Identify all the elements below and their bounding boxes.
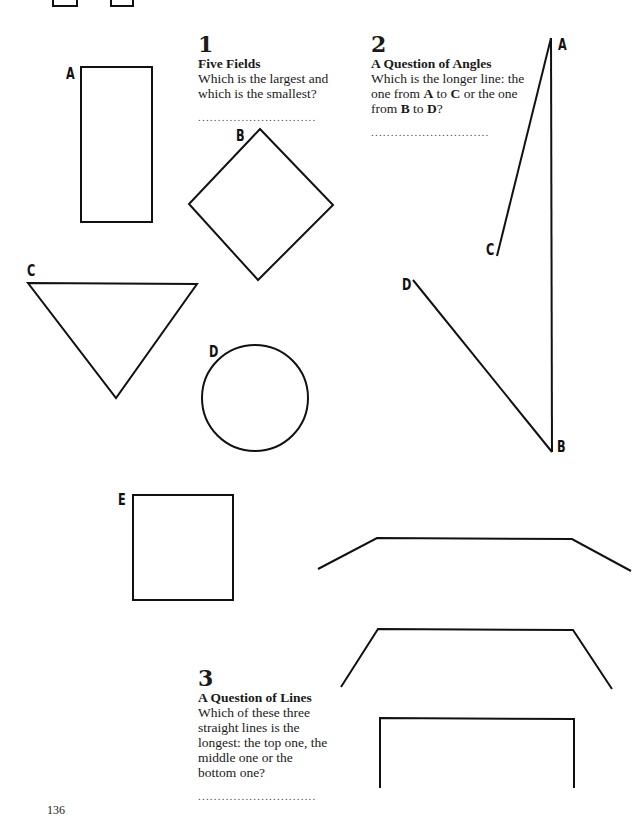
puzzle-2: 2 A Question of Angles Which is the long… [371, 33, 531, 138]
answer-line[interactable]: .............................. [198, 790, 333, 802]
point-ref: B [401, 101, 410, 116]
puzzle-number: 3 [198, 667, 333, 689]
shape-b-diamond [189, 129, 333, 280]
puzzle-question: Which of these three straight lines is t… [198, 705, 333, 780]
point-ref: C [451, 86, 461, 101]
label-point-b: B [557, 440, 566, 455]
puzzle-title: Five Fields [198, 56, 333, 71]
answer-line[interactable]: .............................. [198, 111, 333, 123]
puzzle-1: 1 Five Fields Which is the largest and w… [198, 33, 333, 123]
page-number: 136 [47, 803, 65, 818]
top-partial-boxes [53, 0, 133, 6]
label-c-shape: C [27, 264, 35, 279]
label-b-shape: B [236, 129, 245, 144]
shape-c-triangle [28, 283, 197, 398]
puzzle-3: 3 A Question of Lines Which of these thr… [198, 667, 333, 802]
puzzle-question: Which is the largest and which is the sm… [198, 71, 333, 101]
question-text: to [433, 86, 450, 101]
shape-e-square [133, 495, 233, 600]
puzzle-title: A Question of Angles [371, 56, 531, 71]
puzzle-number: 2 [371, 33, 531, 55]
shape-a-rectangle [81, 67, 152, 222]
label-point-c: C [486, 243, 494, 258]
line-d-to-b [413, 280, 552, 452]
point-ref: A [423, 86, 433, 101]
answer-line[interactable]: .............................. [371, 126, 531, 138]
puzzle-number: 1 [198, 33, 333, 55]
question-text: ? [437, 101, 443, 116]
puzzle-question: Which is the longer line: the one from A… [371, 71, 531, 116]
point-ref: D [427, 101, 437, 116]
line-bottom [380, 718, 574, 788]
line-middle [341, 629, 612, 689]
line-a-to-b [551, 38, 552, 452]
puzzle-page: A B C D E A B C D 1 Five Fields Which is… [0, 0, 644, 823]
label-d-shape: D [209, 345, 218, 360]
label-a-shape: A [66, 67, 75, 82]
label-e-shape: E [118, 493, 126, 508]
line-top [318, 538, 631, 571]
puzzle-title: A Question of Lines [198, 690, 333, 705]
label-point-d: D [402, 278, 411, 293]
question-text: to [410, 101, 427, 116]
label-point-a: A [558, 38, 567, 53]
